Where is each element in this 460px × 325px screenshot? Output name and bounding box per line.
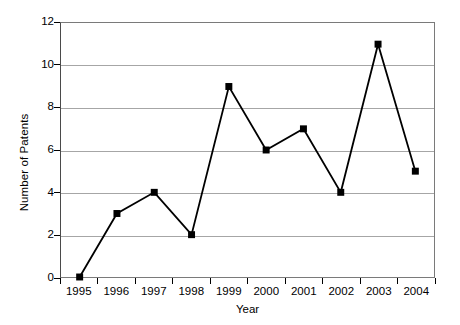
x-axis-tick-mark xyxy=(97,278,98,284)
x-axis-tick-label: 2000 xyxy=(253,286,279,298)
y-axis-tick-mark xyxy=(54,22,60,23)
x-axis-tick-mark xyxy=(435,278,436,284)
y-axis-tick-mark xyxy=(54,150,60,151)
x-axis-tick-label: 1996 xyxy=(103,286,129,298)
x-axis-tick-label: 2003 xyxy=(366,286,392,298)
x-axis-tick-labels: 1995199619971998199920002001200220032004 xyxy=(60,286,435,302)
y-axis-tick-label: 10 xyxy=(41,59,54,71)
data-point-marker xyxy=(76,274,83,281)
x-axis-tick-mark xyxy=(247,278,248,284)
x-axis-title: Year xyxy=(60,304,435,316)
x-axis-tick-mark xyxy=(135,278,136,284)
x-axis-tick-mark xyxy=(172,278,173,284)
series-line xyxy=(80,44,416,277)
x-axis-tick-mark xyxy=(210,278,211,284)
y-axis-tick-mark xyxy=(54,64,60,65)
data-point-marker xyxy=(225,83,232,90)
plot-area xyxy=(60,22,435,278)
data-point-marker xyxy=(263,147,270,154)
x-axis-tick-label: 1995 xyxy=(66,286,92,298)
x-axis-tick-mark xyxy=(397,278,398,284)
data-point-marker xyxy=(337,189,344,196)
y-axis-tick-mark xyxy=(54,107,60,108)
data-point-marker xyxy=(188,231,195,238)
x-axis-tick-label: 2002 xyxy=(328,286,354,298)
data-point-marker xyxy=(113,210,120,217)
y-axis-tick-mark xyxy=(54,192,60,193)
x-axis-tick-mark xyxy=(360,278,361,284)
x-axis-tick-mark xyxy=(60,278,61,284)
x-axis-tick-label: 2004 xyxy=(403,286,429,298)
data-point-marker xyxy=(412,168,419,175)
x-axis-tick-label: 1999 xyxy=(216,286,242,298)
x-axis-tick-mark xyxy=(285,278,286,284)
data-point-marker xyxy=(151,189,158,196)
y-axis-tick-mark xyxy=(54,235,60,236)
x-axis-tick-label: 1998 xyxy=(178,286,204,298)
y-axis-tick-label: 12 xyxy=(41,16,54,28)
data-point-marker xyxy=(375,41,382,48)
x-axis-tick-label: 2001 xyxy=(291,286,317,298)
data-series-line xyxy=(61,23,434,277)
x-axis-tick-label: 1997 xyxy=(141,286,167,298)
y-axis-tick-labels: 024681012 xyxy=(26,22,54,278)
patents-per-year-line-chart: Number of Patents 024681012 199519961997… xyxy=(0,0,460,325)
data-point-marker xyxy=(300,125,307,132)
x-axis-tick-mark xyxy=(322,278,323,284)
